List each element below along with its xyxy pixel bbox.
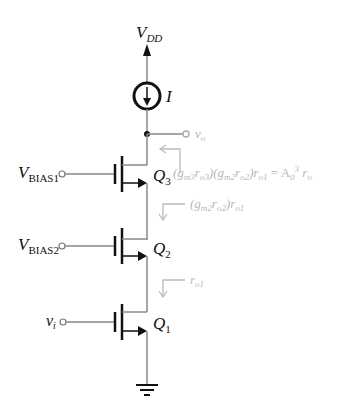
source-arrow-icon [138, 251, 147, 261]
output-terminal [183, 131, 189, 137]
vbias1-label: VBIAS1 [18, 163, 59, 184]
transistor-q2: VBIAS2 Q2 [18, 228, 171, 312]
vdd-label: VDD [136, 23, 162, 44]
circuit-diagram: VDD I vo VBIAS1 Q3 (gm3ro3)(gm2ro2)ro1 = [0, 0, 338, 417]
output-node: vo [144, 126, 206, 165]
vo-label: vo [195, 126, 206, 143]
source-arrow-icon [138, 326, 147, 336]
arrow-up-icon [143, 44, 151, 56]
rout-q1-text: ro1 [190, 272, 204, 289]
transistor-q1: vi Q1 [46, 304, 171, 385]
vbias2-label: VBIAS2 [18, 235, 59, 256]
transistor-q3: VBIAS1 Q3 [18, 156, 171, 240]
rout-q3-text: (gm3ro3)(gm2ro2)ro1 = A03 ro [173, 164, 312, 182]
ground-icon [136, 385, 158, 395]
annotation-q3: (gm3ro3)(gm2ro2)ro1 = A03 ro [160, 145, 312, 182]
current-label: I [165, 87, 173, 106]
q3-label: Q3 [153, 166, 171, 187]
rout-q2-text: (gm2ro2)ro1 [190, 196, 244, 213]
annotation-q1: ro1 [159, 272, 204, 297]
q1-label: Q1 [153, 314, 171, 335]
arrow-down-icon [143, 98, 151, 106]
vi-label: vi [46, 312, 56, 331]
annotation-q2: (gm2ro2)ro1 [159, 196, 244, 220]
q2-label: Q2 [153, 239, 171, 260]
source-arrow-icon [138, 178, 147, 188]
vdd-supply: VDD [136, 23, 162, 83]
current-source: I [134, 83, 173, 133]
